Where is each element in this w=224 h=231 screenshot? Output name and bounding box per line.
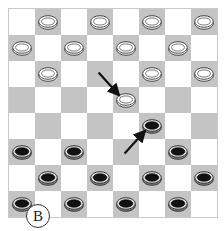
board-square[interactable] [61,61,87,87]
board-square[interactable] [35,61,61,87]
white-checker-piece[interactable] [194,14,214,30]
board-square[interactable] [9,165,35,191]
board-square[interactable] [139,87,165,113]
board-square[interactable] [87,113,113,139]
white-checker-piece[interactable] [116,40,136,56]
board-square[interactable] [113,165,139,191]
white-checker-piece[interactable] [142,66,162,82]
board-square[interactable] [9,87,35,113]
board-square[interactable] [87,61,113,87]
board-square[interactable] [61,165,87,191]
black-checker-piece[interactable] [12,144,32,160]
white-checker-piece[interactable] [90,14,110,30]
board-square[interactable] [191,139,217,165]
white-checker-piece[interactable] [38,14,58,30]
board-square[interactable] [191,87,217,113]
white-checker-piece[interactable] [168,40,188,56]
board-square[interactable] [139,35,165,61]
board-square[interactable] [35,165,61,191]
black-checker-piece[interactable] [168,144,188,160]
black-checker-piece[interactable] [64,196,84,212]
board-square[interactable] [87,139,113,165]
board-square[interactable] [113,87,139,113]
board-square[interactable] [165,35,191,61]
board-square[interactable] [191,191,217,217]
figure-label: B [26,204,50,228]
board-square[interactable] [191,9,217,35]
board-square[interactable] [9,113,35,139]
board-square[interactable] [165,9,191,35]
black-checker-piece[interactable] [116,196,136,212]
board-square[interactable] [113,139,139,165]
board-square[interactable] [139,139,165,165]
board-square[interactable] [191,35,217,61]
board-square[interactable] [35,35,61,61]
black-checker-piece[interactable] [142,118,162,134]
board-square[interactable] [61,9,87,35]
board-square[interactable] [165,139,191,165]
board-square[interactable] [139,191,165,217]
board-square[interactable] [61,191,87,217]
board-square[interactable] [9,35,35,61]
checkers-board [8,8,218,218]
black-checker-piece[interactable] [90,170,110,186]
board-square[interactable] [139,9,165,35]
white-checker-piece[interactable] [12,40,32,56]
board-square[interactable] [61,35,87,61]
board-square[interactable] [35,9,61,35]
board-square[interactable] [165,61,191,87]
board-square[interactable] [87,87,113,113]
board-square[interactable] [87,191,113,217]
white-checker-piece[interactable] [142,14,162,30]
black-checker-piece[interactable] [38,170,58,186]
board-square[interactable] [113,9,139,35]
white-checker-piece[interactable] [116,92,136,108]
board-square[interactable] [61,139,87,165]
board-square[interactable] [87,165,113,191]
black-checker-piece[interactable] [168,196,188,212]
board-square[interactable] [9,9,35,35]
board-square[interactable] [61,113,87,139]
board-square[interactable] [113,191,139,217]
board-square[interactable] [9,61,35,87]
board-square[interactable] [191,165,217,191]
white-checker-piece[interactable] [38,66,58,82]
black-checker-piece[interactable] [142,170,162,186]
board-square[interactable] [87,35,113,61]
board-square[interactable] [35,113,61,139]
board-square[interactable] [113,61,139,87]
board-square[interactable] [165,113,191,139]
white-checker-piece[interactable] [64,40,84,56]
board-square[interactable] [165,191,191,217]
board-square[interactable] [113,113,139,139]
board-square[interactable] [35,139,61,165]
board-square[interactable] [139,165,165,191]
board-square[interactable] [87,9,113,35]
board-square[interactable] [139,113,165,139]
board-square[interactable] [191,113,217,139]
black-checker-piece[interactable] [194,170,214,186]
board-square[interactable] [35,87,61,113]
board-square[interactable] [113,35,139,61]
board-square[interactable] [139,61,165,87]
board-square[interactable] [191,61,217,87]
board-square[interactable] [165,165,191,191]
board-square[interactable] [61,87,87,113]
black-checker-piece[interactable] [64,144,84,160]
board-square[interactable] [165,87,191,113]
white-checker-piece[interactable] [194,66,214,82]
board-square[interactable] [9,139,35,165]
